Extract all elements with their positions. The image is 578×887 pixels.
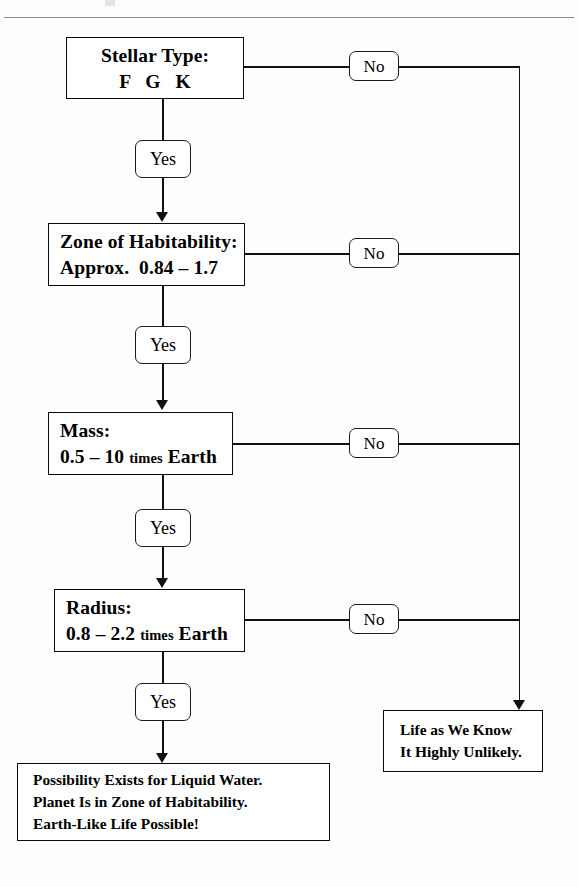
no-pill-stellar-type: No bbox=[349, 51, 399, 81]
decision-radius-range: 0.8 – 2.2 bbox=[66, 623, 140, 644]
no-line-mass-left bbox=[233, 443, 349, 445]
scan-artifact bbox=[105, 0, 115, 6]
yes-line-radius-lower bbox=[162, 721, 164, 757]
no-pill-radius: No bbox=[349, 604, 399, 634]
decision-box-zone-of-habitability: Zone of Habitability: Approx. 0.84 – 1.7 bbox=[48, 223, 245, 286]
arrow-into-positive-outcome bbox=[156, 753, 168, 763]
no-pill-zone: No bbox=[349, 238, 399, 268]
arrow-into-radius-box bbox=[156, 578, 168, 588]
yes-pill-mass: Yes bbox=[135, 509, 191, 547]
decision-mass-range: 0.5 – 10 bbox=[60, 446, 129, 467]
outcome-box-unlikely: Life as We Know It Highly Unlikely. bbox=[383, 710, 543, 772]
outcome-unlikely-line2: It Highly Unlikely. bbox=[400, 741, 522, 763]
no-pill-radius-label: No bbox=[364, 611, 385, 628]
outcome-unlikely-line1: Life as We Know bbox=[400, 719, 512, 741]
decision-stellar-type-line1: Stellar Type: bbox=[101, 44, 209, 67]
yes-pill-zone: Yes bbox=[135, 326, 191, 364]
no-line-zone-right bbox=[399, 253, 520, 255]
yes-pill-stellar-type-label: Yes bbox=[150, 150, 176, 168]
decision-box-mass: Mass: 0.5 – 10 times Earth bbox=[48, 412, 233, 475]
yes-pill-zone-label: Yes bbox=[150, 336, 176, 354]
decision-stellar-type-line2: F G K bbox=[119, 70, 191, 93]
no-line-stellar-type-left bbox=[244, 66, 349, 68]
decision-radius-line1: Radius: bbox=[66, 596, 132, 619]
arrow-into-zone-box bbox=[156, 212, 168, 222]
yes-line-zone-lower bbox=[162, 364, 164, 404]
yes-line-mass-upper bbox=[162, 475, 164, 509]
no-line-zone-left bbox=[245, 253, 349, 255]
no-pill-stellar-type-label: No bbox=[364, 58, 385, 75]
decision-radius-earth-word: Earth bbox=[174, 623, 228, 644]
decision-radius-times-word: times bbox=[140, 627, 174, 643]
no-line-mass-right bbox=[399, 443, 520, 445]
decision-mass-line2: 0.5 – 10 times Earth bbox=[60, 445, 217, 468]
yes-line-stellar-type-upper bbox=[162, 99, 164, 140]
yes-pill-radius: Yes bbox=[135, 683, 191, 721]
arrow-into-negative-outcome bbox=[513, 700, 525, 710]
top-divider-rule bbox=[4, 17, 574, 18]
yes-line-radius-upper bbox=[162, 652, 164, 683]
no-pill-mass: No bbox=[349, 428, 399, 458]
outcome-box-habitable: Possibility Exists for Liquid Water. Pla… bbox=[17, 763, 330, 841]
yes-pill-stellar-type: Yes bbox=[135, 140, 191, 178]
outcome-habitable-line2: Planet Is in Zone of Habitability. bbox=[33, 791, 248, 813]
decision-mass-times-word: times bbox=[129, 450, 163, 466]
no-trunk-vertical-line bbox=[519, 66, 521, 704]
no-line-stellar-type-right bbox=[399, 66, 520, 68]
yes-line-zone-upper bbox=[162, 286, 164, 326]
no-line-radius-right bbox=[399, 619, 520, 621]
decision-mass-line1: Mass: bbox=[60, 419, 110, 442]
no-pill-zone-label: No bbox=[364, 245, 385, 262]
decision-box-stellar-type: Stellar Type: F G K bbox=[66, 37, 244, 99]
flowchart-page: Stellar Type: F G K No Yes Zone of Habit… bbox=[0, 0, 578, 887]
outcome-habitable-line3: Earth-Like Life Possible! bbox=[33, 813, 199, 835]
decision-mass-earth-word: Earth bbox=[163, 446, 217, 467]
yes-pill-mass-label: Yes bbox=[150, 519, 176, 537]
decision-zone-line2: Approx. 0.84 – 1.7 bbox=[60, 256, 218, 279]
yes-pill-radius-label: Yes bbox=[150, 693, 176, 711]
yes-line-stellar-type-lower bbox=[162, 178, 164, 216]
decision-box-radius: Radius: 0.8 – 2.2 times Earth bbox=[54, 589, 245, 652]
arrow-into-mass-box bbox=[156, 400, 168, 410]
yes-line-mass-lower bbox=[162, 547, 164, 581]
no-line-radius-left bbox=[245, 619, 349, 621]
decision-zone-line1: Zone of Habitability: bbox=[60, 230, 238, 253]
no-pill-mass-label: No bbox=[364, 435, 385, 452]
decision-radius-line2: 0.8 – 2.2 times Earth bbox=[66, 622, 228, 645]
outcome-habitable-line1: Possibility Exists for Liquid Water. bbox=[33, 769, 262, 791]
